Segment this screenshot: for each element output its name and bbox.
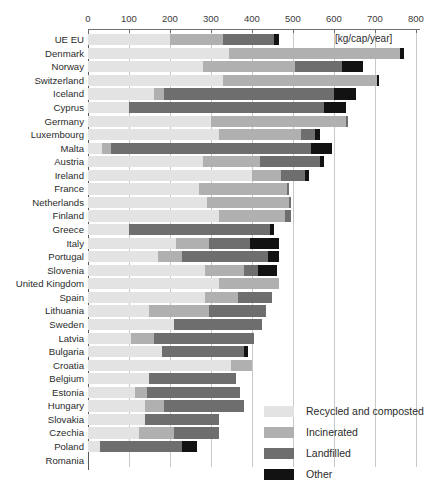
bar-row [88, 116, 420, 127]
bar-segment-recycled [88, 129, 219, 140]
bar-segment-other [182, 441, 196, 452]
legend-swatch-recycled [264, 406, 294, 417]
category-label: Norway [51, 61, 84, 72]
bar-segment-recycled [88, 197, 207, 208]
bar-segment-incinerated [231, 360, 251, 371]
bar-segment-recycled [88, 441, 100, 452]
bar-segment-incinerated [219, 129, 301, 140]
x-tick-label: 0 [85, 13, 90, 24]
bar-segment-recycled [88, 319, 174, 330]
bar-segment-landfilled [295, 61, 342, 72]
legend-item[interactable]: Other [264, 465, 434, 483]
category-label: Austria [54, 156, 84, 167]
category-label: Bulgaria [49, 346, 84, 357]
bar-row [88, 156, 420, 167]
bar-row [88, 251, 420, 262]
category-label: Netherlands [32, 197, 84, 208]
bar-segment-recycled [88, 292, 205, 303]
category-label: Finland [53, 210, 84, 221]
bar-segment-recycled [88, 88, 154, 99]
bar-segment-landfilled [147, 387, 239, 398]
bar-segment-other [268, 251, 278, 262]
bar-row [88, 278, 420, 289]
bar-row [88, 333, 420, 344]
category-label: Ireland [55, 170, 84, 181]
bar-segment-recycled [88, 183, 199, 194]
category-label: Germany [45, 116, 84, 127]
bar-segment-recycled [88, 210, 219, 221]
bar-segment-recycled [88, 75, 223, 86]
bar-segment-other [320, 156, 324, 167]
bar-segment-recycled [88, 116, 211, 127]
bar-segment-incinerated [199, 183, 287, 194]
bar-segment-incinerated [131, 333, 154, 344]
category-label: Italy [66, 238, 84, 249]
bar-row [88, 360, 420, 371]
bar-segment-incinerated [145, 400, 163, 411]
category-label: Romania [46, 455, 84, 466]
x-tick-label: 300 [203, 13, 219, 24]
bar-segment-incinerated [154, 88, 164, 99]
bar-segment-recycled [88, 387, 135, 398]
category-label: Sweden [49, 319, 84, 330]
bar-segment-recycled [88, 414, 145, 425]
bar-segment-incinerated [219, 210, 285, 221]
category-label: Denmark [45, 48, 84, 59]
x-tick-label: 800 [408, 13, 424, 24]
bar-segment-landfilled [223, 34, 274, 45]
bar-segment-landfilled [100, 441, 182, 452]
bar-segment-landfilled [174, 319, 262, 330]
bar-segment-recycled [88, 251, 158, 262]
bar-segment-other [311, 143, 331, 154]
bar-segment-incinerated [149, 305, 208, 316]
category-label: Malta [61, 143, 84, 154]
category-label: Lithuania [45, 305, 84, 316]
bar-segment-landfilled [287, 183, 289, 194]
bar-row [88, 75, 420, 86]
bar-segment-incinerated [223, 75, 377, 86]
legend-item[interactable]: Landfilled [264, 444, 434, 462]
legend-item[interactable]: Incinerated [264, 423, 434, 441]
bar-segment-incinerated [158, 251, 183, 262]
bar-segment-other [334, 88, 357, 99]
bar-segment-other [250, 238, 279, 249]
bar-segment-incinerated [139, 427, 174, 438]
bar-row [88, 373, 420, 384]
bar-segment-incinerated [219, 278, 278, 289]
bar-row [88, 88, 420, 99]
category-label: Latvia [58, 333, 84, 344]
category-label: Croatia [53, 360, 84, 371]
bar-segment-recycled [88, 238, 176, 249]
bar-segment-landfilled [289, 197, 291, 208]
category-label: Estonia [52, 387, 84, 398]
bar-segment-incinerated [252, 170, 281, 181]
bar-segment-other [274, 34, 279, 45]
category-label: Slovenia [47, 265, 84, 276]
bar-row [88, 48, 420, 59]
category-label: Switzerland [34, 75, 84, 86]
bar-segment-landfilled [129, 102, 324, 113]
category-label: Slovakia [48, 414, 84, 425]
category-label: Czechia [49, 427, 84, 438]
legend-swatch-incinerated [264, 427, 294, 438]
category-label: UE EU [55, 34, 84, 45]
bar-segment-recycled [88, 265, 205, 276]
legend-item[interactable]: Recycled and composted [264, 402, 434, 420]
x-tick-label: 600 [326, 13, 342, 24]
bar-segment-landfilled [281, 170, 306, 181]
bar-segment-other [324, 102, 347, 113]
bar-segment-incinerated [211, 116, 346, 127]
bar-row [88, 143, 420, 154]
bar-segment-landfilled [111, 143, 312, 154]
bar-segment-incinerated [170, 34, 223, 45]
bar-segment-other [258, 265, 276, 276]
category-label: France [54, 183, 84, 194]
bar-row [88, 102, 420, 113]
bar-segment-other [270, 224, 274, 235]
bar-row [88, 183, 420, 194]
bar-segment-recycled [88, 170, 252, 181]
bar-row [88, 319, 420, 330]
bar-segment-recycled [88, 346, 162, 357]
category-label: Cyprus [54, 102, 84, 113]
bar-row [88, 197, 420, 208]
